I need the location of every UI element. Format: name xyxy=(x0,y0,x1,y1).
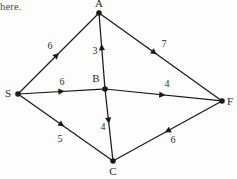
node-layer xyxy=(15,10,225,164)
arrowhead-a-to-f xyxy=(150,48,157,54)
edge-weight-s-c: 5 xyxy=(54,134,66,144)
edge-weight-f-c: 6 xyxy=(167,135,179,145)
node-label-a: A xyxy=(92,0,106,9)
edge-weight-b-f: 4 xyxy=(161,79,173,89)
edge-weight-b-c: 4 xyxy=(97,122,109,132)
arrowhead-s-to-c xyxy=(57,120,64,126)
node-dot-a xyxy=(96,10,102,16)
edge-layer xyxy=(18,13,222,160)
node-dot-s xyxy=(15,91,21,97)
node-dot-c xyxy=(110,158,116,164)
graph-canvas xyxy=(0,0,237,179)
edge-weight-a-f: 7 xyxy=(158,39,170,49)
node-label-s: S xyxy=(1,88,15,99)
node-dot-b xyxy=(102,86,108,92)
node-label-c: C xyxy=(106,166,120,177)
edge-weight-b-a: 3 xyxy=(89,46,101,56)
edge-a-to-f xyxy=(99,13,220,100)
graph-figure: here. 67364456ASBCF xyxy=(0,0,237,179)
edge-weight-s-a: 6 xyxy=(44,41,56,51)
arrowhead-s-to-b xyxy=(58,89,64,95)
edge-weight-s-b: 6 xyxy=(56,77,68,87)
node-label-b: B xyxy=(89,73,103,84)
node-label-f: F xyxy=(223,96,237,107)
